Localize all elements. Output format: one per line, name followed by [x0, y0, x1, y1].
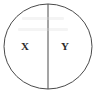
region-label-right: Y	[61, 40, 69, 52]
figure-container: X Y	[0, 0, 95, 94]
region-label-left: X	[21, 40, 29, 52]
divided-circle-diagram: X Y	[0, 0, 95, 94]
